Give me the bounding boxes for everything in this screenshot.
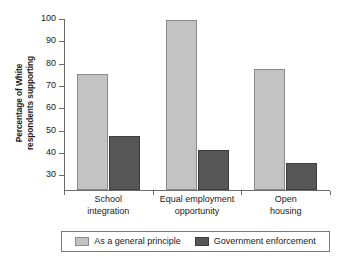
legend-label-government-enforcement: Government enforcement <box>214 236 316 247</box>
y-tick-mark <box>59 131 64 132</box>
x-category-label-0: Schoolintegration <box>64 194 153 217</box>
y-tick-mark <box>59 86 64 87</box>
y-tick-label: 50 <box>46 125 56 136</box>
y-tick-mark <box>59 64 64 65</box>
x-category-label-line: School <box>64 194 153 206</box>
x-axis-category-labels: SchoolintegrationEqual employmentopportu… <box>64 194 330 222</box>
bar-chart-figure: Percentage of White respondents supporti… <box>0 0 354 263</box>
chart-legend: As a general principle Government enforc… <box>61 231 330 252</box>
y-axis-line <box>64 19 65 191</box>
bar-government-enforcement-2 <box>286 163 317 190</box>
legend-item-general-principle: As a general principle <box>75 236 181 247</box>
legend-swatch-icon-light <box>75 237 89 246</box>
x-category-label-2: Openhousing <box>241 194 330 217</box>
y-tick-label: 30 <box>46 169 56 180</box>
plot-area: 30405060708090100 <box>64 19 330 191</box>
x-category-label-line: housing <box>241 206 330 218</box>
legend-item-government-enforcement: Government enforcement <box>195 236 316 247</box>
y-tick-mark <box>59 41 64 42</box>
y-tick-label: 60 <box>46 102 56 113</box>
y-axis-title-line-1: Percentage of White <box>14 56 25 150</box>
bar-general-principle-2 <box>254 69 285 190</box>
x-category-label-line: integration <box>64 206 153 218</box>
y-axis-title-line-2: respondents supporting <box>25 56 36 150</box>
y-tick-label: 100 <box>41 13 56 24</box>
x-category-label-line: Open <box>241 194 330 206</box>
x-tick-mark <box>330 191 331 195</box>
y-tick-label: 40 <box>46 147 56 158</box>
y-tick-label: 90 <box>46 35 56 46</box>
y-tick-mark <box>59 108 64 109</box>
y-axis-title: Percentage of White respondents supporti… <box>10 14 40 192</box>
x-category-label-line: opportunity <box>153 206 242 218</box>
y-tick-label: 80 <box>46 58 56 69</box>
x-category-label-1: Equal employmentopportunity <box>153 194 242 217</box>
y-tick-mark <box>59 175 64 176</box>
legend-label-general-principle: As a general principle <box>94 236 181 247</box>
x-axis-line <box>64 190 330 191</box>
y-tick-mark <box>59 19 64 20</box>
bar-government-enforcement-1 <box>198 150 229 190</box>
bar-general-principle-1 <box>166 20 197 190</box>
legend-swatch-icon-dark <box>195 237 209 246</box>
bar-general-principle-0 <box>77 74 108 190</box>
y-tick-label: 70 <box>46 80 56 91</box>
y-tick-mark <box>59 153 64 154</box>
x-category-label-line: Equal employment <box>153 194 242 206</box>
bar-government-enforcement-0 <box>109 136 140 190</box>
